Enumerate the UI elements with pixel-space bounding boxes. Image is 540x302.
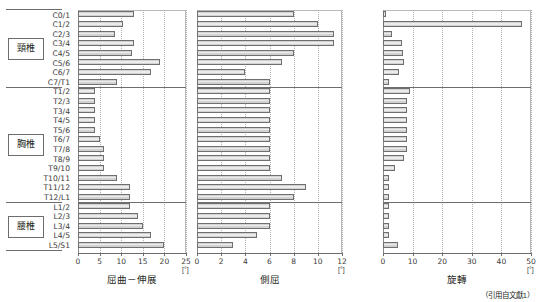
x-tick-mark (531, 253, 532, 256)
bar (197, 242, 233, 248)
bar (78, 165, 104, 171)
bar (78, 223, 143, 229)
bar (197, 155, 270, 161)
gridline (294, 10, 295, 253)
bar (197, 232, 257, 238)
x-tick-label: 30 (460, 257, 484, 266)
bar (383, 79, 389, 85)
bar (197, 50, 294, 56)
x-tick-mark (78, 253, 79, 256)
bar (383, 136, 407, 142)
gridline (270, 10, 271, 253)
section-divider-label-column (6, 202, 62, 203)
gridline (442, 10, 443, 253)
bar (78, 127, 95, 133)
bar (78, 184, 130, 190)
bar (78, 69, 151, 75)
x-tick-mark (270, 253, 271, 256)
x-tick-label: 8 (282, 257, 306, 266)
citation-note: （引用自文獻1） (481, 289, 534, 300)
bar (197, 88, 270, 94)
level-label: T9/10 (0, 164, 70, 173)
level-label: L4/5 (0, 231, 70, 240)
x-tick-label: 12 (330, 257, 354, 266)
bar (197, 213, 270, 219)
bar (383, 117, 407, 123)
bar (383, 203, 389, 209)
x-tick-mark (186, 253, 187, 256)
gridline (342, 10, 343, 253)
bar (78, 21, 123, 27)
bar (383, 88, 410, 94)
level-label: L1/2 (0, 203, 70, 212)
level-label: T2/3 (0, 97, 70, 106)
bar (197, 184, 306, 190)
x-tick-mark (383, 253, 384, 256)
x-axis-title: 旋轉 (377, 272, 537, 286)
section-divider (78, 87, 186, 88)
bar (197, 40, 334, 46)
bar (197, 107, 270, 113)
bar (197, 117, 270, 123)
gridline (413, 10, 414, 253)
bar (197, 79, 270, 85)
bar (383, 155, 404, 161)
bar (78, 194, 130, 200)
bar (78, 155, 104, 161)
x-tick-label: 40 (489, 257, 513, 266)
level-label: L3/4 (0, 222, 70, 231)
x-tick-label: 4 (233, 257, 257, 266)
x-tick-label: 10 (306, 257, 330, 266)
level-label: T8/9 (0, 155, 70, 164)
x-axis-title: 側屈 (190, 272, 350, 286)
section-divider-label-column (6, 250, 62, 251)
bar (383, 242, 398, 248)
level-label: C3/4 (0, 39, 70, 48)
x-tick-label: 20 (152, 257, 176, 266)
bar (383, 40, 402, 46)
bar (78, 50, 132, 56)
figure-root: 頸椎 胸椎 腰椎 C0/1C1/2C2/3C3/4C4/5C5/6C6/7C7/… (0, 0, 540, 302)
x-tick-mark (472, 253, 473, 256)
bar (78, 213, 138, 219)
x-tick-mark (294, 253, 295, 256)
gridline (186, 10, 187, 253)
gridline (318, 10, 319, 253)
x-tick-mark (501, 253, 502, 256)
bar (383, 50, 403, 56)
x-axis (383, 253, 531, 254)
bar (78, 203, 130, 209)
section-divider (78, 202, 186, 203)
gridline (531, 10, 532, 253)
x-tick-label: 0 (371, 257, 395, 266)
bar (383, 184, 389, 190)
bar (197, 203, 270, 209)
panel-rotation: 01020304050[°]旋轉 (383, 10, 531, 253)
gridline (472, 10, 473, 253)
level-label: L5/S1 (0, 241, 70, 250)
bar (383, 127, 407, 133)
bar (78, 232, 151, 238)
section-divider (383, 202, 531, 203)
section-divider-label-column (6, 87, 62, 88)
x-tick-mark (221, 253, 222, 256)
level-label: C4/5 (0, 49, 70, 58)
bar (197, 165, 270, 171)
level-label: T6/7 (0, 135, 70, 144)
x-tick-mark (318, 253, 319, 256)
gridline (501, 10, 502, 253)
x-tick-mark (143, 253, 144, 256)
x-axis-title: 屈曲－伸展 (52, 272, 212, 286)
bar (78, 107, 95, 113)
x-tick-label: 10 (109, 257, 133, 266)
x-tick-label: 0 (185, 257, 209, 266)
x-tick-mark (442, 253, 443, 256)
level-label: T11/12 (0, 183, 70, 192)
x-tick-mark (100, 253, 101, 256)
level-label: T5/6 (0, 126, 70, 135)
level-label: T7/8 (0, 145, 70, 154)
level-label: T4/5 (0, 116, 70, 125)
level-label: C7/T1 (0, 78, 70, 87)
bar (78, 79, 117, 85)
section-divider (197, 87, 342, 88)
